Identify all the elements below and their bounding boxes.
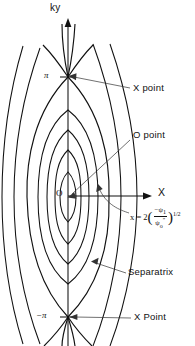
x-axis-label: X xyxy=(158,186,165,198)
separatrix-width-formula: x = 2(−ψ1ψo″)1/2 xyxy=(130,207,181,229)
annotation-o-point: O point xyxy=(133,129,165,140)
annotation-separatrix: Separatrix xyxy=(128,266,173,277)
origin-marker-label: O xyxy=(56,188,63,198)
annotation-x-point-bottom: X Point xyxy=(134,311,166,322)
figure-canvas: ky X π −π O X point O point Separatrix X… xyxy=(0,0,195,346)
open-contours-right xyxy=(93,44,137,346)
tick-label-pi-top: π xyxy=(44,70,49,80)
diagram-svg xyxy=(0,0,195,346)
tick-label-pi-bottom: −π xyxy=(36,310,47,320)
open-contours-left xyxy=(2,46,40,344)
annotation-x-point-top: X point xyxy=(133,82,164,93)
formula-open-paren: ( xyxy=(148,211,153,224)
formula-fraction: −ψ1ψo″ xyxy=(154,207,167,229)
formula-denominator: ψo″ xyxy=(154,217,167,229)
formula-lhs: x = 2 xyxy=(130,212,148,222)
formula-numerator: −ψ1 xyxy=(154,207,167,217)
ky-axis-label: ky xyxy=(50,2,60,13)
formula-exponent: 1/2 xyxy=(173,211,181,217)
